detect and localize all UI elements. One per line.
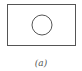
inner-circle — [32, 15, 52, 35]
outer-rectangle — [8, 5, 76, 46]
figure-caption: (a) — [0, 58, 82, 68]
